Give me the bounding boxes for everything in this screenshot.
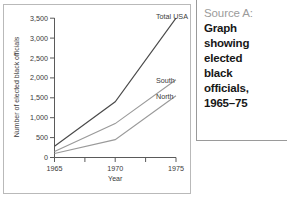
series-label-south: South xyxy=(156,76,175,85)
y-tick-label: 2,500 xyxy=(30,54,48,63)
x-tick-label: 1970 xyxy=(107,164,123,173)
x-tick-label: 1975 xyxy=(168,164,184,173)
y-axis-ticks xyxy=(50,18,55,157)
caption-line: showing xyxy=(204,36,283,51)
screenshot-root: 0 500 1,000 1,500 2,000 2,500 3,000 3,50… xyxy=(0,0,287,199)
caption-line: Graph xyxy=(204,21,283,36)
x-axis-ticks xyxy=(55,158,177,163)
series-line-north xyxy=(55,96,177,154)
caption-line: officials, xyxy=(204,81,283,96)
x-tick-label: 1965 xyxy=(47,164,63,173)
line-chart: 0 500 1,000 1,500 2,000 2,500 3,000 3,50… xyxy=(4,5,190,193)
y-tick-label: 1,500 xyxy=(30,93,48,102)
chart-panel: 0 500 1,000 1,500 2,000 2,500 3,000 3,50… xyxy=(3,4,191,194)
series-label-total-usa: Total USA xyxy=(156,12,188,21)
source-caption-panel: Source A: Graph showing elected black of… xyxy=(196,0,287,141)
y-tick-label: 0 xyxy=(44,153,48,162)
x-axis-title: Year xyxy=(108,175,123,182)
caption-line: elected xyxy=(204,51,283,66)
caption-source-label: Source A: xyxy=(204,6,283,21)
y-axis-tick-labels: 0 500 1,000 1,500 2,000 2,500 3,000 3,50… xyxy=(30,14,48,162)
y-tick-label: 2,000 xyxy=(30,73,48,82)
caption-body: Graph showing elected black officials, 1… xyxy=(204,21,283,112)
x-axis-tick-labels: 1965 1970 1975 xyxy=(47,164,185,173)
y-tick-label: 1,000 xyxy=(30,113,48,122)
y-tick-label: 3,500 xyxy=(30,14,48,23)
y-tick-label: 500 xyxy=(36,133,48,142)
caption-line: black xyxy=(204,66,283,81)
caption-line: 1965–75 xyxy=(204,96,283,111)
y-axis-title: Number of elected black officials xyxy=(13,36,20,137)
series-label-north: North xyxy=(156,92,174,101)
y-tick-label: 3,000 xyxy=(30,34,48,43)
